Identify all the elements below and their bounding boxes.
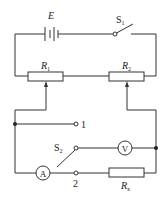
rheostat-r2[interactable] bbox=[109, 72, 144, 81]
top-loop-wires bbox=[15, 34, 156, 76]
voltmeter: V bbox=[118, 141, 132, 155]
ammeter: A bbox=[36, 166, 50, 180]
terminal-1[interactable] bbox=[74, 122, 78, 126]
junction-right bbox=[154, 146, 158, 150]
terminal-2-label: 2 bbox=[73, 178, 78, 189]
circuit-diagram: E S1 R1 R2 1 S2 V A 2 Rx bbox=[0, 0, 168, 200]
rheostat-r2-slider[interactable] bbox=[125, 81, 156, 173]
rheostat-r1-slider[interactable] bbox=[15, 81, 48, 173]
switch-s1-label: S1 bbox=[116, 14, 125, 26]
terminal-1-label: 1 bbox=[81, 119, 86, 130]
switch-s2-label: S2 bbox=[54, 142, 63, 154]
svg-text:V: V bbox=[122, 144, 129, 154]
terminal-2[interactable] bbox=[74, 171, 78, 175]
rheostat-r1[interactable] bbox=[28, 72, 63, 81]
resistor-rx bbox=[109, 168, 144, 177]
svg-text:A: A bbox=[40, 169, 47, 179]
rheostat-r2-label: R2 bbox=[121, 60, 131, 72]
battery-label: E bbox=[47, 10, 54, 21]
switch-s2-pivot[interactable] bbox=[74, 146, 78, 150]
resistor-rx-label: Rx bbox=[120, 180, 130, 192]
rheostat-r1-label: R1 bbox=[40, 60, 50, 72]
battery-symbol bbox=[45, 27, 61, 41]
